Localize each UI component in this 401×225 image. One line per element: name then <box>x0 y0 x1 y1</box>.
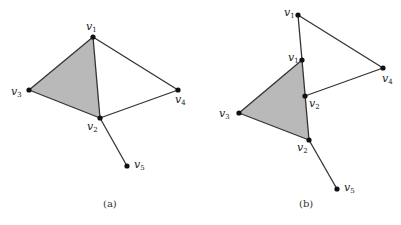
edge-v4-v2 <box>100 90 178 118</box>
figure-canvas: v1 v3 v2 v4 v5 (a) v1 v1 v4 v2 <box>0 0 401 225</box>
vertex-v5 <box>334 186 339 191</box>
panel-b: v1 v1 v4 v2 v3 v2 v5 (b) <box>219 6 393 209</box>
label-v5: v5 <box>344 181 355 195</box>
edge-v4-v2mid <box>305 68 383 96</box>
edge-v1-v4 <box>93 37 178 90</box>
vertex-v3 <box>26 87 31 92</box>
edge-v2bottom-v5 <box>309 140 337 189</box>
vertex-v5 <box>124 163 129 168</box>
panel-a: v1 v3 v2 v4 v5 (a) <box>11 20 186 209</box>
label-v2: v2 <box>87 120 98 134</box>
vertex-v2-mid <box>302 93 307 98</box>
shaded-triangle-face <box>239 60 309 140</box>
caption-a: (a) <box>103 198 117 209</box>
label-v4: v4 <box>175 93 186 107</box>
label-v1: v1 <box>86 20 97 34</box>
vertex-v1-mid <box>299 57 304 62</box>
vertex-v2 <box>97 115 102 120</box>
vertex-v1 <box>90 34 95 39</box>
edge-v1top-v1mid <box>298 15 302 60</box>
caption-b: (b) <box>299 198 313 209</box>
label-v2-bottom: v2 <box>297 141 308 155</box>
label-v3: v3 <box>219 107 230 121</box>
label-v4: v4 <box>382 72 393 86</box>
edge-v2-v5 <box>100 118 127 166</box>
label-v3: v3 <box>11 85 22 99</box>
vertex-v1-top <box>295 12 300 17</box>
vertex-v4 <box>175 87 180 92</box>
shaded-triangle-face <box>29 37 100 118</box>
vertex-v2-bottom <box>306 137 311 142</box>
label-v1-top: v1 <box>284 6 295 20</box>
vertex-v3 <box>236 110 241 115</box>
label-v2-mid: v2 <box>309 97 320 111</box>
label-v1-mid: v1 <box>288 51 299 65</box>
vertex-v4 <box>380 65 385 70</box>
edge-v1top-v4 <box>298 15 383 68</box>
label-v5: v5 <box>134 158 145 172</box>
